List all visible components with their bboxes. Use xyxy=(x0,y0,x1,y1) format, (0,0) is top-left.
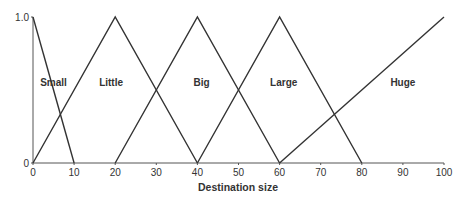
x-tick-label: 20 xyxy=(110,167,122,178)
x-tick-label: 50 xyxy=(233,167,245,178)
label-large: Large xyxy=(270,77,298,88)
series-huge xyxy=(280,17,444,163)
x-tick-label: 30 xyxy=(151,167,163,178)
fuzzy-membership-chart: 010203040506070809010001.0 SmallLittleBi… xyxy=(0,0,468,200)
series-small xyxy=(33,17,74,163)
axes: 010203040506070809010001.0 xyxy=(15,12,453,179)
label-small: Small xyxy=(40,77,67,88)
membership-functions xyxy=(33,17,444,163)
set-labels: SmallLittleBigLargeHuge xyxy=(40,77,416,88)
x-tick-label: 70 xyxy=(315,167,327,178)
y-tick-label: 1.0 xyxy=(15,12,29,23)
x-tick-label: 40 xyxy=(192,167,204,178)
x-tick-label: 90 xyxy=(397,167,409,178)
series-big xyxy=(115,17,279,163)
y-tick-label: 0 xyxy=(23,158,29,169)
label-big: Big xyxy=(193,77,209,88)
label-huge: Huge xyxy=(390,77,415,88)
x-tick-label: 60 xyxy=(274,167,286,178)
series-little xyxy=(33,17,197,163)
x-tick-label: 0 xyxy=(30,167,36,178)
x-axis-title: Destination size xyxy=(198,181,278,193)
label-little: Little xyxy=(99,77,123,88)
x-tick-label: 80 xyxy=(356,167,368,178)
x-tick-label: 10 xyxy=(69,167,81,178)
x-tick-label: 100 xyxy=(436,167,453,178)
series-large xyxy=(197,17,361,163)
